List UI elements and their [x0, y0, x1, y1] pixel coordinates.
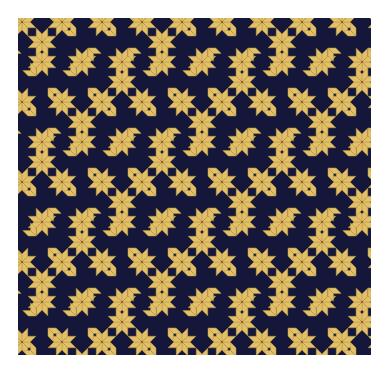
rhombus-pair	[368, 248, 371, 261]
tiling-canvas	[18, 18, 371, 355]
star-motif	[28, 268, 56, 296]
rhombus-pair	[18, 48, 21, 61]
star-motif	[308, 228, 336, 256]
star-motif	[108, 308, 136, 336]
star-motif	[268, 148, 296, 176]
star-motif	[128, 18, 156, 36]
star-motif	[68, 348, 96, 355]
rhombus-pair	[18, 288, 21, 301]
star-motif	[348, 68, 371, 96]
star-motif	[228, 308, 256, 336]
star-motif	[228, 68, 256, 96]
star-motif	[248, 18, 276, 36]
star-motif	[68, 228, 96, 256]
star-motif	[228, 188, 256, 216]
star-motif	[108, 188, 136, 216]
star-motif	[268, 268, 296, 296]
star-motif	[188, 348, 216, 355]
star-motif	[348, 188, 371, 216]
star-motif	[308, 108, 336, 136]
star-motif	[18, 248, 36, 276]
star-motif	[368, 328, 371, 355]
star-motif	[308, 348, 336, 355]
rhombus-pair	[368, 168, 371, 181]
star-motif	[268, 28, 296, 56]
star-motif	[188, 108, 216, 136]
star-motif	[28, 148, 56, 176]
star-motif	[148, 268, 176, 296]
star-motif	[18, 18, 36, 36]
rhombus-pair	[368, 18, 371, 21]
star-motif	[148, 28, 176, 56]
rhombus-pair	[18, 128, 21, 141]
star-motif	[68, 108, 96, 136]
octagonal-tiling-pattern	[18, 18, 371, 355]
star-motif	[148, 148, 176, 176]
star-motif	[108, 68, 136, 96]
star-motif	[348, 308, 371, 336]
star-motif	[368, 88, 371, 116]
star-motif	[188, 228, 216, 256]
star-motif	[28, 28, 56, 56]
star-motif	[368, 18, 371, 36]
